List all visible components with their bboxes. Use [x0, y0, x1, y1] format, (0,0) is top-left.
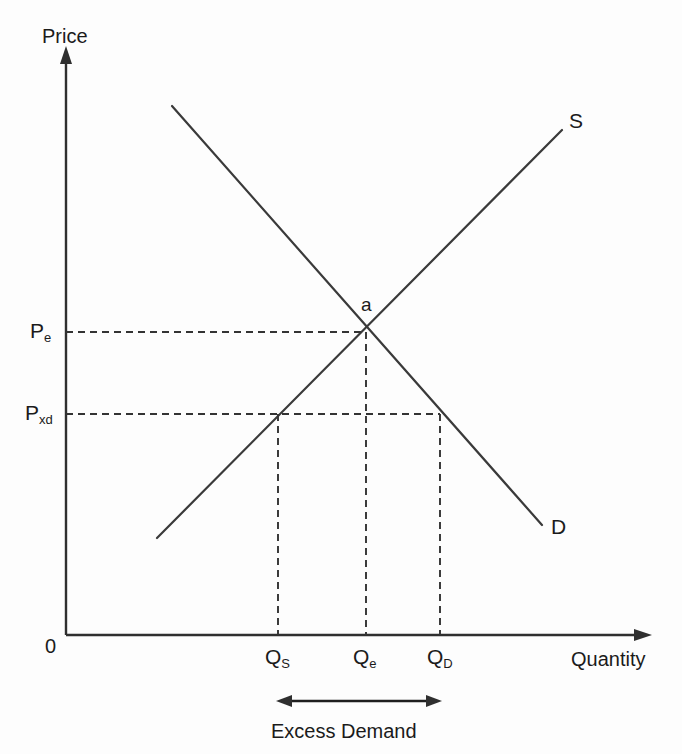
quantity-value-qd: QD — [427, 646, 453, 667]
quantity-axis — [66, 629, 652, 641]
price-value-pxd: Pxd — [25, 402, 53, 423]
supply-curve — [157, 130, 562, 538]
price-value-pxd-subscript: xd — [39, 412, 53, 427]
supply-curve-label: S — [569, 110, 583, 131]
quantity-value-qd-subscript: D — [443, 656, 452, 671]
quantity-value-qe-base: Q — [353, 645, 369, 668]
quantity-value-qe-subscript: e — [369, 656, 376, 671]
supply-demand-figure: Price Quantity 0 S D a Pe Pxd QS Qe QD E… — [0, 0, 682, 754]
equilibrium-point-label: a — [361, 295, 372, 314]
price-value-pe: Pe — [30, 320, 51, 341]
price-value-pe-base: P — [30, 319, 44, 342]
price-axis — [60, 46, 72, 635]
excess-demand-span-arrow — [276, 695, 442, 707]
price-value-pxd-base: P — [25, 401, 39, 424]
quantity-value-qs: QS — [265, 646, 290, 667]
demand-curve-label: D — [551, 516, 566, 537]
span-arrow-right-icon — [426, 695, 442, 707]
span-arrow-left-icon — [276, 695, 292, 707]
quantity-value-qs-base: Q — [265, 645, 281, 668]
quantity-value-qe: Qe — [353, 646, 377, 667]
origin-label: 0 — [45, 636, 56, 656]
quantity-value-qs-subscript: S — [281, 656, 290, 671]
quantity-axis-title: Quantity — [571, 649, 645, 669]
excess-demand-caption: Excess Demand — [271, 721, 417, 741]
quantity-value-qd-base: Q — [427, 645, 443, 668]
price-axis-arrow-icon — [60, 46, 72, 64]
price-value-pe-subscript: e — [44, 330, 51, 345]
price-axis-title: Price — [42, 26, 88, 46]
demand-curve — [172, 106, 542, 525]
quantity-axis-arrow-icon — [634, 629, 652, 641]
